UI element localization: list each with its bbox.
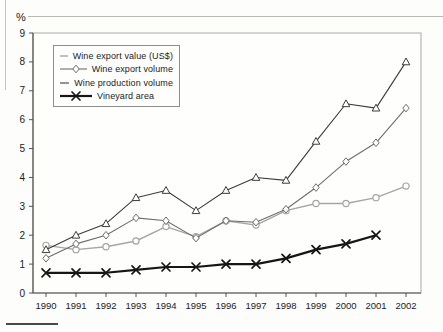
marker-circle bbox=[403, 183, 409, 189]
y-tick-label: 5 bbox=[19, 143, 25, 154]
legend-label: Wine production volume bbox=[74, 78, 173, 88]
x-tick-label: 1996 bbox=[215, 300, 236, 311]
marker-circle bbox=[313, 200, 319, 206]
y-tick-label: 4 bbox=[19, 172, 25, 183]
legend-item-vineyard-area: Vineyard area bbox=[60, 90, 173, 102]
x-tick-label: 1991 bbox=[65, 300, 86, 311]
x-tick-label: 1998 bbox=[275, 300, 296, 311]
marker-circle bbox=[103, 244, 109, 250]
legend-label: Wine export value (US$) bbox=[73, 51, 173, 61]
y-tick-label: 8 bbox=[19, 56, 25, 67]
figure-bottom-mark bbox=[6, 323, 58, 325]
legend-sample-x bbox=[60, 90, 92, 102]
y-tick-label: 0 bbox=[19, 288, 25, 299]
x-tick-label: 1993 bbox=[125, 300, 146, 311]
legend-item-wine-production-volume: Wine production volume bbox=[60, 77, 173, 89]
y-tick-label: 9 bbox=[19, 28, 25, 39]
y-tick-label: 6 bbox=[19, 114, 25, 125]
marker-circle bbox=[133, 238, 139, 244]
x-tick-label: 2000 bbox=[335, 300, 356, 311]
legend-sample-circle bbox=[60, 50, 68, 62]
legend-item-wine-export-volume: Wine export volume bbox=[60, 63, 173, 75]
marker-diamond bbox=[73, 66, 79, 74]
y-tick-label: 3 bbox=[19, 201, 25, 212]
x-tick-label: 1990 bbox=[35, 300, 56, 311]
legend-label: Vineyard area bbox=[97, 91, 154, 101]
y-tick-label: 7 bbox=[19, 85, 25, 96]
x-tick-label: 1992 bbox=[95, 300, 116, 311]
chart-figure: % 01234567891990199119921993199419951996… bbox=[0, 0, 443, 332]
marker-circle bbox=[373, 195, 379, 201]
x-tick-label: 1997 bbox=[245, 300, 266, 311]
legend-sample-triangle bbox=[60, 77, 69, 89]
x-tick-label: 2001 bbox=[365, 300, 386, 311]
x-tick-label: 2002 bbox=[395, 300, 416, 311]
x-tick-label: 1994 bbox=[155, 300, 176, 311]
legend-label: Wine export volume bbox=[92, 64, 173, 74]
chart-legend: Wine export value (US$)Wine export volum… bbox=[53, 45, 180, 107]
marker-circle bbox=[343, 200, 349, 206]
y-tick-label: 1 bbox=[19, 259, 25, 270]
x-tick-label: 1999 bbox=[305, 300, 326, 311]
legend-item-wine-export-value-us: Wine export value (US$) bbox=[60, 50, 173, 62]
y-tick-label: 2 bbox=[19, 230, 25, 241]
x-tick-label: 1995 bbox=[185, 300, 206, 311]
legend-sample-diamond bbox=[60, 63, 87, 75]
